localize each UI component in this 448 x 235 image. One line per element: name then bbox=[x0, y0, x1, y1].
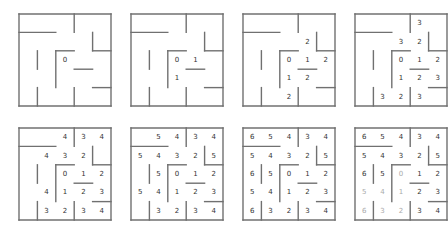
distance-label: 1 bbox=[392, 74, 410, 82]
distance-label: 4 bbox=[262, 152, 280, 160]
distance-label: 3 bbox=[298, 133, 316, 141]
distance-label: 5 bbox=[262, 133, 280, 141]
distance-label: 5 bbox=[243, 188, 261, 196]
distance-label: 1 bbox=[168, 188, 186, 196]
distance-label: 2 bbox=[410, 152, 428, 160]
distance-label: 3 bbox=[392, 38, 410, 46]
maze-panel-step-5: 5434543255012541233234 bbox=[131, 128, 223, 220]
distance-label: 3 bbox=[410, 133, 428, 141]
distance-label: 4 bbox=[205, 133, 223, 141]
distance-label: 2 bbox=[280, 93, 298, 101]
distance-label: 3 bbox=[74, 207, 92, 215]
distance-label: 2 bbox=[317, 56, 335, 64]
distance-label: 4 bbox=[205, 207, 223, 215]
distance-label: 0 bbox=[280, 56, 298, 64]
distance-label: 5 bbox=[374, 170, 392, 178]
distance-label: 4 bbox=[93, 207, 111, 215]
distance-label: 5 bbox=[317, 152, 335, 160]
distance-label: 3 bbox=[298, 207, 316, 215]
distance-label: 2 bbox=[410, 74, 428, 82]
distance-label: 4 bbox=[150, 188, 168, 196]
distance-label: 3 bbox=[74, 133, 92, 141]
distance-label: 2 bbox=[93, 170, 111, 178]
distance-label: 1 bbox=[168, 74, 186, 82]
maze-panel-step-1: 011 bbox=[131, 14, 223, 106]
distance-label: 2 bbox=[298, 38, 316, 46]
distance-label: 2 bbox=[429, 170, 447, 178]
distance-label: 3 bbox=[429, 188, 447, 196]
distance-label: 2 bbox=[429, 56, 447, 64]
distance-label: 0 bbox=[392, 170, 410, 178]
distance-label: 4 bbox=[317, 207, 335, 215]
distance-label: 1 bbox=[280, 188, 298, 196]
distance-label: 1 bbox=[186, 170, 204, 178]
distance-label: 5 bbox=[205, 152, 223, 160]
distance-label: 4 bbox=[38, 188, 56, 196]
distance-label: 2 bbox=[280, 207, 298, 215]
distance-label: 6 bbox=[243, 207, 261, 215]
distance-label: 3 bbox=[280, 152, 298, 160]
distance-label: 1 bbox=[298, 170, 316, 178]
distance-label: 4 bbox=[56, 133, 74, 141]
distance-label: 2 bbox=[317, 170, 335, 178]
distance-label: 3 bbox=[429, 74, 447, 82]
distance-label: 3 bbox=[410, 93, 428, 101]
distance-label: 0 bbox=[168, 56, 186, 64]
maze-panel-step-3: 332012123323 bbox=[355, 14, 447, 106]
distance-label: 2 bbox=[168, 207, 186, 215]
distance-label: 2 bbox=[205, 170, 223, 178]
distance-label: 3 bbox=[38, 207, 56, 215]
distance-label: 5 bbox=[355, 152, 373, 160]
maze-panel-step-2: 2012122 bbox=[243, 14, 335, 106]
distance-label: 2 bbox=[298, 188, 316, 196]
distance-label: 6 bbox=[243, 133, 261, 141]
distance-label: 3 bbox=[93, 188, 111, 196]
distance-label: 3 bbox=[205, 188, 223, 196]
distance-label: 5 bbox=[429, 152, 447, 160]
distance-label: 5 bbox=[262, 170, 280, 178]
distance-label: 2 bbox=[186, 152, 204, 160]
distance-label: 3 bbox=[186, 133, 204, 141]
distance-label: 1 bbox=[186, 56, 204, 64]
distance-label: 0 bbox=[56, 170, 74, 178]
distance-label: 2 bbox=[186, 188, 204, 196]
distance-label: 4 bbox=[262, 188, 280, 196]
distance-label: 5 bbox=[355, 188, 373, 196]
distance-label: 1 bbox=[410, 170, 428, 178]
distance-label: 1 bbox=[410, 56, 428, 64]
distance-label: 3 bbox=[410, 207, 428, 215]
maze-panel-step-0: 0 bbox=[19, 14, 111, 106]
distance-label: 3 bbox=[392, 152, 410, 160]
distance-label: 2 bbox=[410, 188, 428, 196]
distance-label: 2 bbox=[56, 207, 74, 215]
distance-label: 3 bbox=[168, 152, 186, 160]
distance-label: 5 bbox=[243, 152, 261, 160]
distance-label: 6 bbox=[243, 170, 261, 178]
distance-label: 4 bbox=[374, 152, 392, 160]
distance-label: 6 bbox=[355, 133, 373, 141]
distance-label: 3 bbox=[317, 188, 335, 196]
distance-label: 4 bbox=[392, 133, 410, 141]
distance-label: 1 bbox=[56, 188, 74, 196]
distance-label: 4 bbox=[93, 133, 111, 141]
distance-label: 4 bbox=[429, 133, 447, 141]
distance-label: 5 bbox=[150, 133, 168, 141]
distance-label: 5 bbox=[131, 152, 149, 160]
distance-label: 5 bbox=[374, 133, 392, 141]
distance-label: 6 bbox=[355, 170, 373, 178]
distance-label: 3 bbox=[262, 207, 280, 215]
distance-label: 5 bbox=[131, 188, 149, 196]
maze-panel-step-6: 6543454325650125412363234 bbox=[243, 128, 335, 220]
distance-label: 2 bbox=[74, 152, 92, 160]
distance-label: 3 bbox=[410, 19, 428, 27]
distance-label: 1 bbox=[298, 56, 316, 64]
distance-label: 3 bbox=[374, 207, 392, 215]
distance-label: 3 bbox=[186, 207, 204, 215]
distance-label: 2 bbox=[298, 74, 316, 82]
distance-label: 0 bbox=[56, 56, 74, 64]
distance-label: 1 bbox=[280, 74, 298, 82]
distance-label: 4 bbox=[374, 188, 392, 196]
distance-label: 1 bbox=[74, 170, 92, 178]
distance-label: 0 bbox=[168, 170, 186, 178]
distance-label: 3 bbox=[56, 152, 74, 160]
